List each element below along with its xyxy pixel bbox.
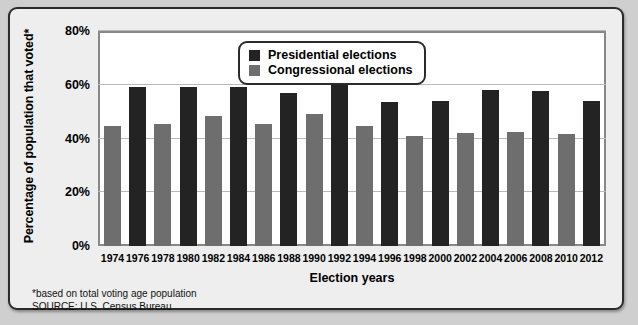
x-axis-tick-label: 1992 (328, 252, 351, 264)
bar (558, 134, 575, 246)
bar (381, 102, 398, 246)
bar-column: 2012 (582, 31, 601, 246)
x-axis-tick-label: 1986 (252, 252, 275, 264)
footnote-source: SOURCE: U.S. Census Bureau (32, 300, 197, 313)
x-axis-tick-label: 1984 (227, 252, 250, 264)
bar (180, 87, 197, 246)
bar (129, 87, 146, 246)
y-axis-tick-label: 20% (65, 185, 90, 199)
footnote-basis: *based on total voting age population (32, 287, 197, 300)
chart-legend: Presidential electionsCongressional elec… (238, 41, 426, 85)
legend-swatch-icon (249, 65, 260, 76)
bar (583, 101, 600, 246)
bar (356, 126, 373, 246)
x-axis-tick-label: 2000 (428, 252, 451, 264)
chart-frame: Percentage of population that voted* 0%2… (8, 7, 624, 310)
bar (280, 93, 297, 246)
x-axis-tick-label: 1994 (353, 252, 376, 264)
y-axis-tick-label: 60% (65, 78, 90, 92)
bar (432, 101, 449, 246)
y-axis-title: Percentage of population that voted* (22, 21, 36, 251)
bar (205, 116, 222, 246)
bar (230, 87, 247, 246)
bar-column: 2010 (557, 31, 576, 246)
bar (457, 133, 474, 246)
bar-column: 1982 (204, 31, 223, 246)
x-axis-tick-label: 1978 (151, 252, 174, 264)
bar-column: 2004 (481, 31, 500, 246)
x-axis-tick-label: 1988 (277, 252, 300, 264)
x-axis-title: Election years (98, 271, 606, 285)
legend-item: Presidential elections (249, 48, 412, 62)
x-axis-tick-label: 1998 (403, 252, 426, 264)
x-axis-tick-label: 1976 (126, 252, 149, 264)
bar-column: 1974 (103, 31, 122, 246)
bar-column: 1976 (128, 31, 147, 246)
y-axis-tick-label: 40% (65, 132, 90, 146)
legend-label: Presidential elections (268, 48, 397, 62)
x-axis-tick-label: 1990 (302, 252, 325, 264)
bar-column: 1978 (153, 31, 172, 246)
bar-column: 2008 (531, 31, 550, 246)
bar (104, 126, 121, 246)
bar-column: 2000 (431, 31, 450, 246)
x-axis-tick-label: 2004 (479, 252, 502, 264)
y-axis-tick-label: 80% (65, 24, 90, 38)
bar (532, 91, 549, 246)
x-axis-tick-label: 2006 (504, 252, 527, 264)
bar (406, 136, 423, 246)
x-axis-tick-label: 1982 (202, 252, 225, 264)
legend-item: Congressional elections (249, 63, 412, 77)
x-axis-tick-label: 2010 (554, 252, 577, 264)
x-axis-tick-label: 1980 (176, 252, 199, 264)
footnotes: *based on total voting age population SO… (32, 287, 197, 313)
bar (306, 114, 323, 246)
bar (255, 124, 272, 246)
plot-area-wrapper: 0%20%40%60%80% 1974197619781980198219841… (98, 31, 606, 246)
bar (331, 82, 348, 246)
bar-column: 1980 (179, 31, 198, 246)
x-axis-tick-label: 1996 (378, 252, 401, 264)
legend-swatch-icon (249, 50, 260, 61)
x-axis-tick-label: 2002 (454, 252, 477, 264)
x-axis-tick-label: 2008 (529, 252, 552, 264)
bar (482, 90, 499, 246)
legend-label: Congressional elections (268, 63, 412, 77)
x-axis-tick-label: 2012 (580, 252, 603, 264)
bar (507, 132, 524, 246)
bar (154, 124, 171, 246)
x-axis-tick-label: 1974 (101, 252, 124, 264)
y-axis-tick-label: 0% (72, 239, 90, 253)
bar-column: 2002 (456, 31, 475, 246)
bar-column: 2006 (506, 31, 525, 246)
